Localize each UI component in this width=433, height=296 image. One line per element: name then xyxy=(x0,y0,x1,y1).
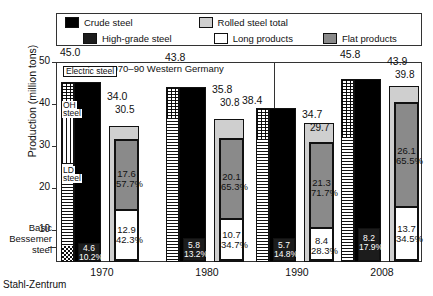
long-pct-1980: 34.7% xyxy=(221,240,242,251)
legend-item-long-products: Long products xyxy=(214,33,293,44)
ld-steel-annotation-line2: steel xyxy=(62,174,82,183)
legend-item-flat-products: Flat products xyxy=(323,33,397,44)
legend-swatch-long-products xyxy=(214,33,228,44)
y-tick-label-40: 40 xyxy=(30,97,50,108)
segment-ld-steel-2008 xyxy=(342,137,353,261)
rolled-total-label-1970: 34.0 xyxy=(107,90,147,102)
bessemer-line-3: steel xyxy=(0,244,52,255)
rolled-steel-inner-bar-1980: 20.1 65.3% 10.7 34.7% xyxy=(219,138,244,261)
crude-steel-composition-bar-2008 xyxy=(341,79,354,262)
segment-ld-steel-1990 xyxy=(257,139,268,261)
x-axis-label-1990: 1990 xyxy=(256,266,338,278)
rolled-steel-inner-bar-2008: 26.1 65.5% 13.7 34.5% xyxy=(394,102,419,261)
segment-electric-steel-2008 xyxy=(342,80,353,137)
legend-swatch-flat-products xyxy=(323,33,337,44)
flat-products-segment-1970: 17.6 57.7% xyxy=(115,140,138,210)
high-grade-steel-segment-1990: 5.7 14.8% xyxy=(273,238,295,261)
rolled-total-label-1990: 34.7 xyxy=(302,108,342,120)
long-products-segment-1970: 12.9 42.3% xyxy=(115,210,138,260)
long-products-segment-1980: 10.7 34.7% xyxy=(220,219,243,260)
high-grade-steel-segment-1980: 5.8 13.2% xyxy=(183,238,205,261)
crude-total-label-1980: 43.8 xyxy=(165,51,215,63)
long-pct-1990: 28.3% xyxy=(311,246,332,257)
crude-steel-composition-bar-1980 xyxy=(166,87,179,262)
flat-pct-2008: 65.5% xyxy=(396,156,417,167)
flat-pct-1980: 65.3% xyxy=(221,182,242,193)
crude-total-label-1990: 38.4 xyxy=(242,94,292,106)
legend-row-2: High-grade steel Long products Flat prod… xyxy=(57,30,421,46)
bar-group-1970: 4.6 10.2% 17.6 57.7% 12.9 42.3% 45.0 34.… xyxy=(61,62,143,262)
segment-electric-steel-1990 xyxy=(257,109,268,139)
legend-label-flat-products: Flat products xyxy=(342,33,397,44)
y-tick-label-50: 50 xyxy=(30,55,50,66)
flat-products-segment-2008: 26.1 65.5% xyxy=(395,103,418,207)
long-products-segment-1990: 8.4 28.3% xyxy=(310,228,333,260)
legend-swatch-high-grade-steel xyxy=(83,33,97,44)
electric-steel-annotation: Electric steel xyxy=(63,66,117,77)
flat-pct-1970: 57.7% xyxy=(116,179,137,190)
high-grade-pct-1970: 10.2% xyxy=(79,253,99,262)
bar-group-1980: 5.8 13.2% 20.1 65.3% 10.7 34.7% 43.8 35.… xyxy=(166,62,248,262)
bar-group-1990: 5.7 14.8% 21.3 71.7% 8.4 28.3% 38.4 34.7… xyxy=(256,62,338,262)
long-pct-2008: 34.5% xyxy=(396,234,417,245)
crude-steel-bar-1980: 5.8 13.2% xyxy=(179,87,206,262)
long-pct-1970: 42.3% xyxy=(116,235,137,246)
rolled-steel-inner-bar-1970: 17.6 57.7% 12.9 42.3% xyxy=(114,139,139,261)
rolled-total-label-2008: 43.9 xyxy=(387,55,427,67)
flat-products-segment-1990: 21.3 71.7% xyxy=(310,143,333,228)
crude-steel-bar-1990: 5.7 14.8% xyxy=(269,108,296,262)
bar-group-2008: 8.2 17.9% 26.1 65.5% 13.7 34.5% 45.8 43.… xyxy=(341,62,423,262)
oh-steel-annotation-line2: steel xyxy=(62,109,82,118)
bessemer-leader-line xyxy=(48,247,56,248)
x-axis-label-2008: 2008 xyxy=(341,266,423,278)
x-axis-label-1980: 1980 xyxy=(166,266,248,278)
crude-total-label-2008: 45.8 xyxy=(340,48,390,60)
high-grade-pct-2008: 17.9% xyxy=(359,243,379,252)
segment-electric-steel-1980 xyxy=(167,88,178,118)
high-grade-steel-segment-2008: 8.2 17.9% xyxy=(358,228,380,261)
source-note: Stahl-Zentrum xyxy=(3,279,66,290)
rolled-inner-label-1990: 29.7 xyxy=(310,122,344,133)
rolled-inner-label-2008: 39.8 xyxy=(395,69,429,80)
legend-item-crude-steel: Crude steel xyxy=(65,17,133,28)
legend-item-rolled-steel-total: Rolled steel total xyxy=(199,17,288,28)
chart-legend: Crude steel Rolled steel total High-grad… xyxy=(56,13,422,46)
segment-ld-steel-1980 xyxy=(167,118,178,261)
rolled-steel-total-bar-1980: 20.1 65.3% 10.7 34.7% xyxy=(214,119,244,262)
legend-row-1: Crude steel Rolled steel total xyxy=(57,14,421,30)
rolled-steel-total-bar-1990: 21.3 71.7% 8.4 28.3% xyxy=(304,123,334,262)
legend-item-high-grade-steel: High-grade steel xyxy=(83,33,172,44)
x-axis-label-1970: 1970 xyxy=(61,266,143,278)
rolled-steel-total-bar-2008: 26.1 65.5% 13.7 34.5% xyxy=(389,86,419,262)
flat-pct-1990: 71.7% xyxy=(311,188,332,199)
rolled-inner-label-1970: 30.5 xyxy=(115,104,149,115)
bessemer-line-2: Bessemer xyxy=(0,233,52,244)
rolled-steel-total-bar-1970: 17.6 57.7% 12.9 42.3% xyxy=(109,126,139,262)
legend-label-crude-steel: Crude steel xyxy=(84,17,133,28)
crude-steel-composition-bar-1990 xyxy=(256,108,269,262)
long-products-segment-2008: 13.7 34.5% xyxy=(395,207,418,260)
crude-steel-bar-2008: 8.2 17.9% xyxy=(354,79,381,262)
crude-total-label-1970: 45.0 xyxy=(60,46,110,58)
legend-label-rolled-steel-total: Rolled steel total xyxy=(218,17,288,28)
high-grade-pct-1980: 13.2% xyxy=(184,250,204,259)
segment-basic-bessemer-steel-1970 xyxy=(62,246,73,262)
legend-label-long-products: Long products xyxy=(233,33,293,44)
high-grade-steel-segment-1970: 4.6 10.2% xyxy=(78,243,100,261)
flat-products-segment-1980: 20.1 65.3% xyxy=(220,139,243,219)
legend-label-high-grade-steel: High-grade steel xyxy=(102,33,172,44)
legend-swatch-rolled-steel-total xyxy=(199,17,213,28)
y-tick-label-20: 20 xyxy=(30,181,50,192)
y-tick-label-30: 30 xyxy=(30,139,50,150)
high-grade-pct-1990: 14.8% xyxy=(274,250,294,259)
bessemer-line-1: Basic xyxy=(0,222,52,233)
rolled-steel-inner-bar-1990: 21.3 71.7% 8.4 28.3% xyxy=(309,142,334,261)
basic-bessemer-steel-label: Basic Bessemer steel xyxy=(0,222,52,255)
legend-swatch-crude-steel xyxy=(65,17,79,28)
